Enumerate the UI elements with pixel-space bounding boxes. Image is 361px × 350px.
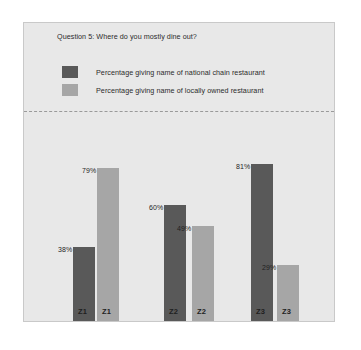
chart-title: Question 5: Where do you mostly dine out… xyxy=(57,32,197,41)
bar-z2-national-chain xyxy=(164,205,186,321)
bar-value-label: 38% xyxy=(58,246,72,253)
legend-label-national-chain: Percentage giving name of national chain… xyxy=(96,68,265,77)
bar-value-label: 49% xyxy=(177,225,191,232)
legend-swatch-locally-owned xyxy=(62,84,78,96)
legend-swatch-national-chain xyxy=(62,66,78,78)
bar-value-label: 29% xyxy=(262,264,276,271)
bar-category-label: Z1 xyxy=(102,307,111,316)
bar-z1-locally-owned xyxy=(97,168,119,321)
bar-category-label: Z2 xyxy=(169,307,178,316)
chart-plot-area: 38%Z179%Z160%Z249%Z281%Z329%Z3 xyxy=(24,112,334,321)
bar-value-label: 81% xyxy=(236,163,250,170)
bar-value-label: 60% xyxy=(149,204,163,211)
bar-z3-national-chain xyxy=(251,164,273,321)
bar-value-label: 79% xyxy=(82,167,96,174)
chart-legend: Percentage giving name of national chain… xyxy=(62,63,265,99)
bar-category-label: Z1 xyxy=(78,307,87,316)
legend-item-national-chain: Percentage giving name of national chain… xyxy=(62,63,265,81)
bar-category-label: Z3 xyxy=(256,307,265,316)
bar-category-label: Z2 xyxy=(197,307,206,316)
bar-category-label: Z3 xyxy=(282,307,291,316)
legend-label-locally-owned: Percentage giving name of locally owned … xyxy=(96,86,264,95)
chart-panel: Question 5: Where do you mostly dine out… xyxy=(23,22,335,322)
legend-item-locally-owned: Percentage giving name of locally owned … xyxy=(62,81,265,99)
chart-header: Question 5: Where do you mostly dine out… xyxy=(24,23,334,111)
